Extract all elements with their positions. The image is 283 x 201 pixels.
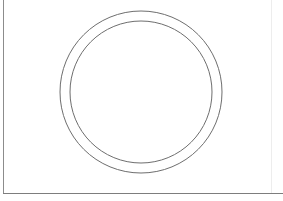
canvas-background: [0, 0, 283, 201]
drawing-canvas: [0, 0, 283, 201]
vector-drawing: [0, 0, 283, 201]
